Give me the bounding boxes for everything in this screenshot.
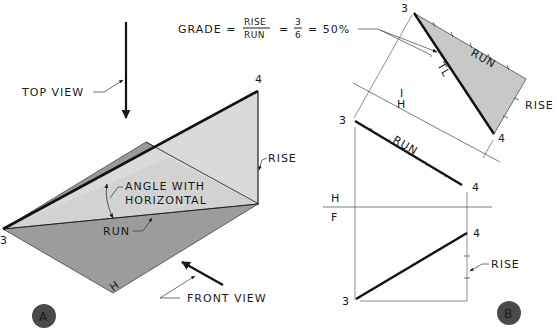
view-b-orthographic: RUN RISE TL 3 4 H I RUN 3 4 H F — [323, 2, 554, 325]
formula-frac1-den: RUN — [244, 30, 265, 40]
front-point-4: 4 — [473, 227, 480, 240]
grade-formula: GRADE = RISE RUN = 3 6 = 50% — [178, 17, 437, 57]
front-rise-leader — [470, 264, 489, 271]
formula-lhs: GRADE = — [178, 23, 236, 36]
formula-eq: = — [279, 23, 289, 36]
front-view-arrow — [182, 262, 223, 285]
top-point-4: 4 — [472, 181, 479, 194]
front-view-line — [356, 233, 467, 299]
top-view-leader — [93, 80, 123, 92]
formula-result: = 50% — [308, 23, 350, 36]
rise-label: RISE — [268, 152, 297, 165]
top-point-3: 3 — [339, 114, 346, 127]
front-point-3: 3 — [342, 295, 349, 308]
view-a-pictorial: 3 4 TOP VIEW RISE ANGLE WITH HORIZONTAL … — [0, 22, 297, 328]
run-label: RUN — [103, 225, 130, 238]
point-4-label: 4 — [255, 73, 262, 86]
top-view-label: TOP VIEW — [21, 86, 84, 99]
aux-rise-label: RISE — [525, 99, 554, 112]
aux-point-4: 4 — [498, 132, 505, 145]
aux-triangle — [414, 13, 526, 134]
diagram-canvas: GRADE = RISE RUN = 3 6 = 50% 3 4 TOP VIE… — [0, 0, 557, 331]
formula-leader — [358, 29, 431, 57]
angle-label-line1: ANGLE WITH — [125, 180, 205, 193]
front-view-label: FRONT VIEW — [187, 292, 267, 305]
rise-leader — [259, 158, 267, 170]
fold-f-label: F — [331, 211, 337, 224]
fold-1-label: I — [400, 87, 403, 100]
point-3-label: 3 — [0, 234, 7, 247]
badge-a-label: A — [39, 310, 48, 324]
badge-b-label: B — [504, 307, 512, 321]
aux-point-3: 3 — [401, 2, 408, 15]
formula-frac2-den: 6 — [295, 30, 301, 40]
formula-frac1-num: RISE — [244, 17, 266, 27]
angle-label-line2: HORIZONTAL — [125, 194, 207, 207]
top-run-label: RUN — [391, 133, 421, 158]
fold-h2-label: H — [331, 192, 339, 205]
front-rise-label: RISE — [491, 258, 520, 271]
formula-frac2-num: 3 — [295, 17, 301, 27]
